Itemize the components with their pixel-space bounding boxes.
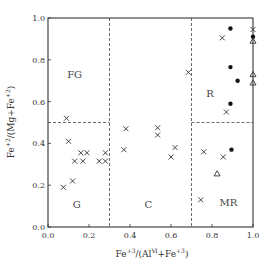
scatter-chart: 0.00.20.40.60.81.0 0.00.20.40.60.81.0 FG… <box>0 0 267 270</box>
cross-marker-icon <box>61 185 66 190</box>
region-dividers <box>48 18 253 227</box>
region-label-g: G <box>73 199 81 210</box>
x-tick-label: 0.2 <box>83 231 96 240</box>
cross-marker-icon <box>155 125 160 130</box>
cross-marker-icon <box>70 179 75 184</box>
region-label-mr: MR <box>220 197 238 208</box>
cross-marker-icon <box>84 150 89 155</box>
region-label-fg: FG <box>67 69 82 80</box>
y-axis-title: Fe+2/(Mg+Fe+2) <box>4 86 16 158</box>
cross-marker-icon <box>220 35 225 40</box>
filled-circle-marker-icon <box>228 65 232 69</box>
y-tick-label: 0.4 <box>32 139 45 148</box>
cross-marker-icon <box>78 150 83 155</box>
x-tick-label: 0.4 <box>124 231 137 240</box>
x-axis-ticks: 0.00.20.40.60.81.0 <box>42 224 260 240</box>
cross-marker-icon <box>123 126 128 131</box>
x-tick-label: 0.6 <box>165 231 178 240</box>
cross-marker-icon <box>97 159 102 164</box>
triangle-marker-icon <box>214 171 220 176</box>
filled-circle-marker-icon <box>229 147 233 151</box>
x-tick-label: 1.0 <box>247 231 260 240</box>
region-label-c: C <box>145 199 153 210</box>
region-label-r: R <box>206 88 214 99</box>
cross-marker-icon <box>221 154 226 159</box>
cross-marker-icon <box>64 116 69 121</box>
filled-circle-marker-icon <box>228 101 232 105</box>
cross-marker-icon <box>103 150 108 155</box>
cross-marker-icon <box>169 154 174 159</box>
filled-circle-marker-icon <box>235 79 239 83</box>
x-tick-label: 0.8 <box>206 231 219 240</box>
y-tick-label: 0.2 <box>32 181 45 190</box>
cross-marker-icon <box>121 147 126 152</box>
cross-marker-icon <box>173 145 178 150</box>
x-tick-label: 0.0 <box>42 231 55 240</box>
y-tick-label: 0.6 <box>32 98 45 107</box>
cross-marker-icon <box>198 197 203 202</box>
cross-marker-icon <box>66 139 71 144</box>
cross-marker-icon <box>72 159 77 164</box>
x-axis-title: Fe+3/(AlⅥ+Fe+3) <box>116 247 189 259</box>
filled-circle-marker-icon <box>228 26 232 30</box>
y-tick-label: 0.0 <box>32 223 45 232</box>
y-tick-label: 1.0 <box>32 14 45 23</box>
cross-marker-icon <box>80 159 85 164</box>
cross-marker-icon <box>103 159 108 164</box>
y-tick-label: 0.8 <box>32 56 45 65</box>
cross-marker-icon <box>201 149 206 154</box>
data-points <box>61 26 256 202</box>
cross-marker-icon <box>155 133 160 138</box>
region-labels: FGGCRMR <box>67 69 238 210</box>
cross-marker-icon <box>186 70 191 75</box>
cross-marker-icon <box>224 110 229 115</box>
